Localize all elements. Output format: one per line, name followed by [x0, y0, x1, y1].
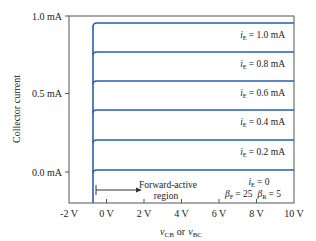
label-ie-0.8: iE= 0.8 mA — [240, 59, 285, 70]
y-tick-label-1.0: 1.0 mA — [32, 11, 63, 22]
label-betas: βF= 25βR= 5 — [224, 189, 281, 200]
curve-ie-0.6 — [93, 81, 294, 84]
forward-active-annotation: Forward-active region — [96, 180, 197, 201]
region-label-line1: Forward-active — [139, 180, 197, 190]
label-ie-0.6: iE= 0.6 mA — [240, 88, 285, 99]
chart-svg: 1.0 mA 0.5 mA 0.0 mA Collector current -… — [0, 0, 316, 241]
label-ie-1.0: iE= 1.0 mA — [240, 30, 285, 41]
y-tick-label-0.5: 0.5 mA — [32, 88, 63, 99]
x-tick-label-8: 8 V — [249, 208, 264, 219]
y-tick-label-0.0: 0.0 mA — [32, 167, 63, 178]
label-ie-0.4: iE= 0.4 mA — [240, 117, 285, 128]
curve-ie-0.4 — [93, 110, 294, 113]
x-tick-label--2: -2 V — [60, 208, 79, 219]
curve-ie-0.8 — [93, 52, 294, 55]
curve-group — [93, 23, 294, 203]
x-tick-label-0: 0 V — [99, 208, 114, 219]
curve-ie-0 — [93, 170, 294, 173]
x-tick-label-2: 2 V — [137, 208, 152, 219]
label-ie-0: iE= 0 — [248, 177, 269, 188]
x-tick-label-10: 10 V — [284, 208, 304, 219]
region-label-line2: region — [154, 191, 179, 201]
x-tick-label-4: 4 V — [174, 208, 189, 219]
y-axis-title: Collector current — [11, 75, 22, 143]
curve-ie-1.0 — [93, 23, 294, 27]
label-ie-0.2: iE= 0.2 mA — [240, 147, 285, 158]
x-axis-title: vCBorvBC — [160, 226, 202, 239]
curve-ie-0.2 — [93, 140, 294, 143]
x-tick-label-6: 6 V — [212, 208, 227, 219]
